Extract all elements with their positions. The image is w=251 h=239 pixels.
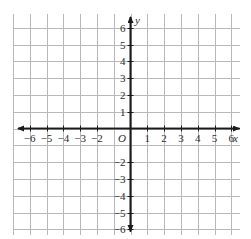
- x-axis-name-label: x: [233, 133, 238, 144]
- x-tick-label: 2: [161, 133, 167, 144]
- x-tick-label: 5: [212, 133, 218, 144]
- x-tick-label: −4: [57, 133, 69, 144]
- y-axis-name-label: y: [135, 15, 140, 26]
- origin-label: O: [118, 133, 126, 144]
- y-tick-label: 1: [120, 106, 126, 117]
- x-tick-label: 3: [178, 133, 184, 144]
- x-tick-label: −5: [41, 133, 53, 144]
- y-tick-label: −3: [114, 173, 126, 184]
- y-tick-label: −6: [114, 224, 126, 235]
- x-tick-label: −3: [74, 133, 86, 144]
- y-tick-label: 6: [120, 22, 126, 33]
- x-tick-label: −6: [24, 133, 36, 144]
- x-tick-label: 4: [195, 133, 201, 144]
- x-tick-label: 1: [145, 133, 151, 144]
- x-tick-label: −2: [91, 133, 103, 144]
- y-tick-label: 3: [120, 73, 126, 84]
- y-tick-label: 2: [120, 89, 126, 100]
- coordinate-plane-figure: −6−5−4−3−2123456 654321−2−3−4−5−6 O x y: [0, 0, 251, 239]
- y-tick-label: −2: [114, 157, 126, 168]
- y-tick-label: 4: [120, 56, 126, 67]
- axes: [0, 0, 251, 239]
- y-tick-label: −5: [114, 207, 126, 218]
- y-tick-label: 5: [120, 39, 126, 50]
- y-tick-label: −4: [114, 190, 126, 201]
